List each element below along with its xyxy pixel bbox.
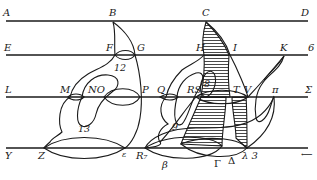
label-A: A xyxy=(2,7,10,18)
label-Sigma: Σ xyxy=(304,84,313,95)
label-lambda3: λ 3 xyxy=(241,150,258,161)
curve-m-to-z xyxy=(44,97,70,148)
curve-g-to-epsilon xyxy=(125,55,141,148)
label-Gamma: Γ xyxy=(214,158,221,169)
region-number-13: 13 xyxy=(78,123,90,134)
label-Z: Z xyxy=(37,150,46,161)
curve-k-to-pi-a xyxy=(255,56,284,122)
topology-diagram: A B C D E F G H I K 6 L M NO P Q RS T V … xyxy=(0,0,317,180)
label-E: E xyxy=(3,42,12,53)
label-pi: π xyxy=(271,84,279,95)
loop-no xyxy=(78,75,118,127)
label-6: 6 xyxy=(308,42,315,53)
region-number-12: 12 xyxy=(114,62,126,73)
label-M: M xyxy=(59,84,71,95)
label-epsilon: ε xyxy=(122,150,126,159)
label-NO: NO xyxy=(87,84,105,95)
label-F: F xyxy=(105,42,114,53)
curve-b-to-f xyxy=(113,22,115,55)
label-Delta: Δ xyxy=(228,155,235,166)
arrow-left-icon: ⟵ xyxy=(301,150,313,159)
label-P: P xyxy=(141,84,149,95)
region-number-9: 9 xyxy=(172,121,178,132)
curve-k-to-pi-b xyxy=(264,56,284,80)
label-Q: Q xyxy=(157,84,165,95)
label-I: I xyxy=(232,42,238,53)
curve-k-to-v xyxy=(248,56,284,97)
label-G: G xyxy=(137,42,145,53)
label-beta: β xyxy=(161,159,168,170)
label-Y: Y xyxy=(5,150,13,161)
label-H: H xyxy=(195,42,205,53)
label-L: L xyxy=(4,84,12,95)
label-D: D xyxy=(300,7,309,18)
label-B: B xyxy=(108,7,116,18)
label-C: C xyxy=(202,7,210,18)
region-number-8: 8 xyxy=(204,78,210,89)
label-K: K xyxy=(279,42,288,53)
label-RS: RS xyxy=(186,84,202,95)
label-R7: R₇ xyxy=(135,150,148,161)
shaded-right-region xyxy=(232,97,247,148)
